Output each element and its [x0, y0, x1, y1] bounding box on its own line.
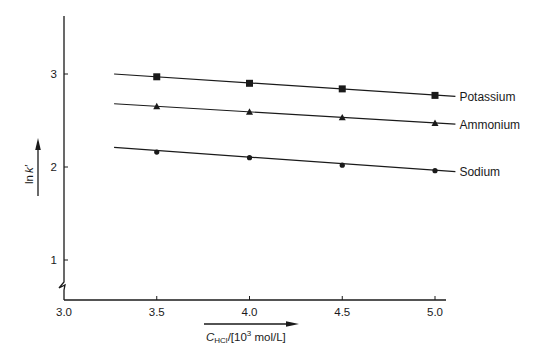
x-tick-label: 4.0 [242, 306, 258, 318]
fit-line-ammonium [114, 104, 455, 124]
y-axis-title: lnk′ [23, 138, 41, 196]
x-tick-label: 5.0 [427, 306, 443, 318]
square-marker-icon [246, 80, 253, 87]
circle-marker-icon [340, 163, 345, 168]
square-marker-icon [432, 92, 439, 99]
y-tick-label: 2 [51, 161, 57, 173]
series-markers [153, 73, 438, 173]
square-marker-icon [339, 85, 346, 92]
circle-marker-icon [247, 155, 252, 160]
y-axis-line [59, 16, 65, 300]
series-label-potassium: Potassium [459, 90, 515, 104]
chart-container: 3.03.54.04.55.0123 PotassiumAmmoniumSodi… [0, 0, 544, 357]
fit-line-sodium [114, 147, 455, 171]
arrow-right-icon [286, 321, 299, 327]
fit-line-potassium [114, 74, 455, 96]
series-lines [114, 74, 455, 172]
circle-marker-icon [432, 168, 437, 173]
series-labels: PotassiumAmmoniumSodium [459, 90, 520, 179]
series-label-ammonium: Ammonium [459, 118, 520, 132]
y-tick-label: 3 [51, 68, 57, 80]
x-tick-label: 3.0 [56, 306, 72, 318]
y-tick-label: 1 [51, 254, 57, 266]
line-chart: 3.03.54.04.55.0123 PotassiumAmmoniumSodi… [0, 0, 544, 357]
series-label-sodium: Sodium [459, 165, 500, 179]
y-axis-label: lnk′ [23, 164, 35, 184]
x-tick-label: 3.5 [149, 306, 165, 318]
x-axis-title: CHCl/[103 mol/L] [204, 321, 299, 345]
x-tick-label: 4.5 [334, 306, 350, 318]
arrow-up-icon [35, 138, 41, 150]
circle-marker-icon [154, 150, 159, 155]
x-axis-label: CHCl/[103 mol/L] [206, 329, 286, 345]
square-marker-icon [153, 73, 160, 80]
